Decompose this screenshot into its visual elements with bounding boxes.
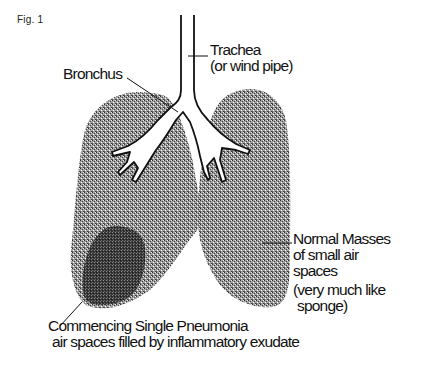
bronchus-label: Bronchus [63, 66, 122, 82]
pneumonia-label-line1: Commencing Single Pneumonia [48, 318, 299, 334]
normal-label-line5: sponge) [293, 298, 390, 314]
pneumonia-label: Commencing Single Pneumonia air spaces f… [48, 318, 299, 350]
trachea-label: Trachea (or wind pipe) [210, 42, 293, 74]
bronchus-label-line1: Bronchus [63, 66, 122, 82]
trachea-label-line1: Trachea [210, 42, 293, 58]
normal-label-line1: Normal Masses [293, 231, 390, 247]
normal-label-line2: of small air [293, 247, 390, 263]
right-lung [198, 89, 290, 307]
trachea-label-line2: (or wind pipe) [210, 58, 293, 74]
normal-label-line4: (very much like [293, 282, 390, 298]
pneumonia-label-line2: air spaces filled by inflammatory exudat… [48, 334, 299, 350]
normal-label-line3: spaces [293, 263, 390, 279]
normal-tissue-label: Normal Masses of small air spaces (very … [293, 231, 390, 314]
